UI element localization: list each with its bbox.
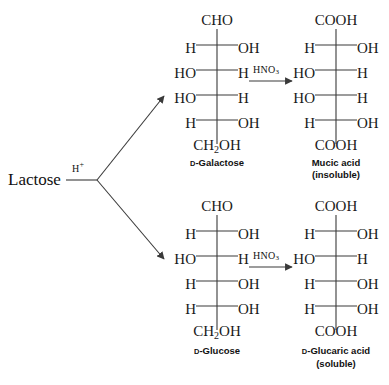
glucose-row-4-right: OH <box>238 300 260 318</box>
caption-glucose: D-Glucose <box>194 345 240 358</box>
caption-glucaric-acid-prefix: D <box>302 347 307 356</box>
caption-mucic-acid-note: (insoluble) <box>312 169 361 181</box>
caption-glucose-prefix: D <box>194 347 199 356</box>
reactant-label-lactose: Lactose <box>8 170 61 190</box>
glucaric-row-4: H OH <box>286 297 386 322</box>
galactose-terminal-bottom: CH2OH <box>193 136 241 159</box>
glucaric-terminal-bottom: COOH <box>315 322 358 340</box>
galactose-row-1-left: H <box>185 39 196 57</box>
glucose-terminal-bottom-head: CH <box>193 323 214 339</box>
mucic-row-top: COOH <box>286 11 386 36</box>
galactose-row-2-right: H <box>238 64 249 82</box>
glucaric-row-1-left: H <box>304 225 315 243</box>
structure-glucaric-acid: COOH H OH HO H H OH H OH COOH <box>286 197 386 347</box>
caption-glucaric-acid-note: (soluble) <box>302 358 370 370</box>
glucose-row-bottom: CH2OH <box>167 322 267 347</box>
glucose-terminal-bottom: CH2OH <box>193 322 241 345</box>
glucaric-row-2-left: HO <box>293 250 315 268</box>
structure-galactose: CHO H OH HO H HO H H OH CH2OH <box>167 11 267 161</box>
galactose-terminal-bottom-tail: OH <box>219 137 241 153</box>
glucaric-row-4-right: OH <box>357 300 379 318</box>
galactose-row-4-left: H <box>185 114 196 132</box>
galactose-row-2-left: HO <box>174 64 196 82</box>
glucaric-row-4-left: H <box>304 300 315 318</box>
glucose-row-3-left: H <box>185 275 196 293</box>
glucaric-row-3: H OH <box>286 272 386 297</box>
caption-galactose: D-Galactose <box>190 157 244 170</box>
branch-arrow-upper <box>97 96 164 180</box>
galactose-row-1-right: OH <box>238 39 260 57</box>
galactose-terminal-top: CHO <box>201 11 233 29</box>
caption-glucose-text: -Glucose <box>199 345 240 356</box>
glucose-row-2: HO H <box>167 247 267 272</box>
catalyst-charge: + <box>80 160 85 169</box>
catalyst-label-proton: H+ <box>72 160 84 174</box>
glucose-row-1: H OH <box>167 222 267 247</box>
glucose-terminal-bottom-tail: OH <box>219 323 241 339</box>
mucic-row-4: H OH <box>286 111 386 136</box>
mucic-row-1-left: H <box>304 39 315 57</box>
glucose-row-top: CHO <box>167 197 267 222</box>
galactose-row-3-left: HO <box>174 89 196 107</box>
glucose-row-2-left: HO <box>174 250 196 268</box>
caption-galactose-text: -Galactose <box>195 157 244 168</box>
mucic-row-3-left: HO <box>293 89 315 107</box>
mucic-row-1-right: OH <box>357 39 379 57</box>
caption-mucic-acid: Mucic acid (insoluble) <box>312 157 361 181</box>
caption-galactose-prefix: D <box>190 159 195 168</box>
glucaric-row-1-right: OH <box>357 225 379 243</box>
glucose-row-1-left: H <box>185 225 196 243</box>
catalyst-symbol: H <box>72 163 80 174</box>
mucic-row-4-right: OH <box>357 114 379 132</box>
glucaric-row-top: COOH <box>286 197 386 222</box>
reagent-subscript-bottom: 3 <box>276 254 280 262</box>
mucic-terminal-bottom: COOH <box>315 136 358 154</box>
glucaric-row-3-right: OH <box>357 275 379 293</box>
mucic-row-3-right: H <box>357 89 368 107</box>
glucose-row-3: H OH <box>167 272 267 297</box>
galactose-row-top: CHO <box>167 11 267 36</box>
galactose-row-1: H OH <box>167 36 267 61</box>
galactose-row-4-right: OH <box>238 114 260 132</box>
mucic-terminal-top: COOH <box>315 11 358 29</box>
mucic-row-2-left: HO <box>293 64 315 82</box>
glucaric-row-bottom: COOH <box>286 322 386 347</box>
galactose-row-4: H OH <box>167 111 267 136</box>
caption-glucaric-acid-text: -Glucaric acid <box>307 345 370 356</box>
mucic-row-2-right: H <box>357 64 368 82</box>
glucaric-row-3-left: H <box>304 275 315 293</box>
glucaric-row-2: HO H <box>286 247 386 272</box>
glucose-terminal-top: CHO <box>201 197 233 215</box>
galactose-row-3: HO H <box>167 86 267 111</box>
galactose-row-3-right: H <box>238 89 249 107</box>
glucose-row-2-right: H <box>238 250 249 268</box>
reagent-subscript-top: 3 <box>276 68 280 76</box>
caption-mucic-acid-text: Mucic acid <box>312 157 361 168</box>
galactose-row-2: HO H <box>167 61 267 86</box>
mucic-row-3: HO H <box>286 86 386 111</box>
glucaric-row-2-right: H <box>357 250 368 268</box>
mucic-row-2: HO H <box>286 61 386 86</box>
reaction-scheme: Lactose H+ HNO3 HNO3 CHO H OH HO H HO H … <box>0 0 389 385</box>
glucose-row-3-right: OH <box>238 275 260 293</box>
structure-mucic-acid: COOH H OH HO H HO H H OH COOH <box>286 11 386 161</box>
branch-arrow-lower <box>97 180 164 259</box>
glucose-row-4: H OH <box>167 297 267 322</box>
glucaric-terminal-top: COOH <box>315 197 358 215</box>
mucic-row-4-left: H <box>304 114 315 132</box>
caption-glucaric-acid: D-Glucaric acid (soluble) <box>302 345 370 370</box>
galactose-terminal-bottom-head: CH <box>193 137 214 153</box>
glucose-row-1-right: OH <box>238 225 260 243</box>
mucic-row-1: H OH <box>286 36 386 61</box>
glucose-row-4-left: H <box>185 300 196 318</box>
structure-glucose: CHO H OH HO H H OH H OH CH2OH <box>167 197 267 347</box>
glucaric-row-1: H OH <box>286 222 386 247</box>
